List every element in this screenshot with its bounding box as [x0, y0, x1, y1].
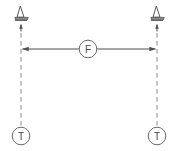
dimension-diagram: F T T: [0, 0, 175, 151]
terminal-right: T: [148, 127, 166, 145]
dimension-label: F: [85, 44, 91, 55]
cone-marker-icon: [15, 6, 28, 20]
fixture-left: [15, 6, 28, 32]
terminal-left: T: [12, 127, 30, 145]
diagram-canvas: F T T: [0, 0, 175, 151]
terminal-left-label: T: [18, 131, 24, 142]
cone-marker-icon: [151, 6, 164, 20]
terminal-right-label: T: [154, 131, 160, 142]
horizontal-dimension: F: [23, 40, 156, 58]
fixture-right: [151, 6, 164, 32]
